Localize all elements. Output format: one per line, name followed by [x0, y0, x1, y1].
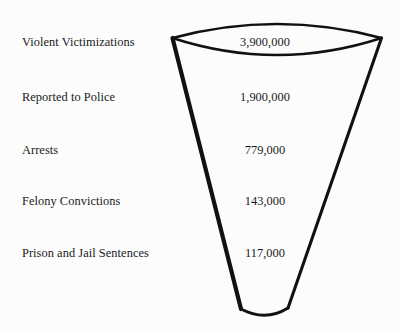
- stage-label: Arrests: [22, 143, 58, 158]
- stage-label: Prison and Jail Sentences: [22, 246, 149, 261]
- stage-value: 143,000: [175, 194, 355, 209]
- stage-label: Reported to Police: [22, 90, 115, 105]
- stage-label: Felony Convictions: [22, 194, 120, 209]
- stage-label: Violent Victimizations: [22, 35, 135, 50]
- stage-value: 779,000: [175, 143, 355, 158]
- stage-value: 1,900,000: [175, 90, 355, 105]
- stage-value: 117,000: [175, 246, 355, 261]
- funnel-rows: Violent Victimizations 3,900,000 Reporte…: [0, 0, 400, 333]
- funnel-diagram: Violent Victimizations 3,900,000 Reporte…: [0, 0, 400, 333]
- stage-value: 3,900,000: [175, 35, 355, 50]
